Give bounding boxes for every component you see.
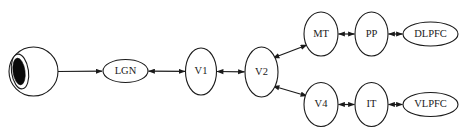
node-v2[interactable]: V2 bbox=[245, 47, 278, 97]
edge-line bbox=[273, 45, 307, 58]
node-vlpfc[interactable]: VLPFC bbox=[403, 93, 458, 117]
node-label-it: IT bbox=[367, 98, 377, 109]
node-label-pp: PP bbox=[366, 28, 378, 39]
node-mt[interactable]: MT bbox=[304, 12, 338, 56]
node-eye[interactable] bbox=[9, 47, 58, 96]
node-pp[interactable]: PP bbox=[355, 12, 388, 56]
node-v1[interactable]: V1 bbox=[186, 48, 217, 95]
node-v4[interactable]: V4 bbox=[304, 83, 338, 127]
node-label-mt: MT bbox=[313, 28, 329, 39]
node-lgn[interactable]: LGN bbox=[103, 60, 148, 83]
edge-v2-v4 bbox=[273, 86, 307, 96]
node-label-v4: V4 bbox=[315, 98, 329, 109]
node-label-vlpfc: VLPFC bbox=[414, 98, 447, 109]
node-label-v2: V2 bbox=[255, 66, 268, 77]
edge-v2-mt bbox=[273, 45, 307, 58]
diagram-canvas: LGNV1V2MTPPDLPFCV4ITVLPFC bbox=[0, 0, 464, 133]
edge-line bbox=[273, 86, 307, 96]
node-it[interactable]: IT bbox=[355, 83, 388, 127]
node-label-dlpfc: DLPFC bbox=[414, 28, 447, 39]
visual-pathway-diagram: LGNV1V2MTPPDLPFCV4ITVLPFC bbox=[0, 0, 464, 133]
node-dlpfc[interactable]: DLPFC bbox=[403, 22, 458, 46]
node-label-v1: V1 bbox=[195, 65, 208, 76]
node-label-lgn: LGN bbox=[115, 65, 137, 76]
nodes-layer: LGNV1V2MTPPDLPFCV4ITVLPFC bbox=[9, 12, 458, 127]
